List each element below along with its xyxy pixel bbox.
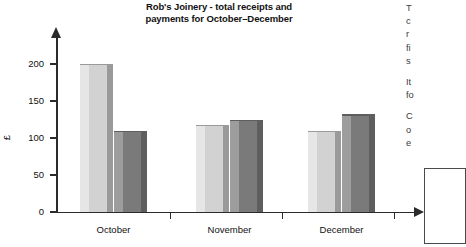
x-axis-label-october: October	[59, 224, 169, 235]
side-text-line: C	[406, 110, 443, 123]
x-axis-tick	[282, 212, 283, 219]
side-bordered-box	[424, 168, 466, 244]
side-spacer-1	[406, 68, 443, 76]
bar-face-mid	[123, 131, 141, 212]
side-paragraph-1: Tcrfis	[406, 2, 443, 68]
bar-face-right	[223, 125, 229, 212]
y-axis-tick	[50, 174, 57, 175]
y-axis-tick	[50, 137, 57, 138]
y-axis-arrow-icon	[51, 27, 61, 38]
bar-top-edge	[114, 131, 147, 132]
bar-receipts-november	[196, 125, 229, 212]
bar-face-right	[369, 114, 375, 212]
side-text-line: o	[406, 124, 443, 137]
bar-face-left	[196, 125, 205, 212]
bar-receipts-december	[308, 131, 341, 212]
y-axis-tick	[50, 211, 57, 212]
side-text-line: c	[406, 15, 443, 28]
bar-face-right	[257, 120, 263, 213]
y-axis-tick-label: 100	[10, 132, 44, 143]
bar-face-right	[141, 131, 147, 212]
bar-face-right	[335, 131, 341, 212]
side-text-column: Tcrfis Itfo Coe	[406, 2, 443, 150]
y-axis-tick	[50, 100, 57, 101]
bar-face-left	[114, 131, 123, 212]
bar-payments-october	[114, 131, 147, 212]
bar-top-edge	[230, 120, 263, 121]
side-text-line: s	[406, 55, 443, 68]
side-spacer-2	[406, 102, 443, 110]
side-text-line: fi	[406, 42, 443, 55]
bar-face-mid	[351, 114, 369, 212]
bar-face-mid	[205, 125, 223, 212]
bar-face-mid	[239, 120, 257, 213]
bar-face-left	[230, 120, 239, 213]
bar-top-edge	[308, 131, 341, 132]
y-axis-tick-label: 200	[10, 58, 44, 69]
bar-receipts-october	[80, 64, 113, 212]
x-axis-label-november: November	[175, 224, 285, 235]
y-axis-tick-label: 0	[10, 206, 44, 217]
bar-top-edge	[342, 114, 375, 115]
side-text-line: e	[406, 137, 443, 150]
x-axis-tick	[170, 212, 171, 219]
y-axis-tick-label: 50	[10, 169, 44, 180]
x-axis-tick	[394, 212, 395, 219]
bar-top-edge	[196, 125, 229, 126]
side-paragraph-3: Coe	[406, 110, 443, 150]
bar-payments-november	[230, 120, 263, 213]
bar-face-mid	[317, 131, 335, 212]
bar-face-mid	[89, 64, 107, 212]
side-paragraph-2: Itfo	[406, 76, 443, 102]
y-axis-tick	[50, 63, 57, 64]
side-text-line: fo	[406, 89, 443, 102]
x-axis-label-december: December	[287, 224, 397, 235]
bar-face-left	[80, 64, 89, 212]
bar-face-right	[107, 64, 113, 212]
side-text-line: T	[406, 2, 443, 15]
side-text-line: r	[406, 28, 443, 41]
x-axis-arrow-icon	[414, 207, 424, 217]
bar-payments-december	[342, 114, 375, 212]
y-axis-tick-label: 150	[10, 95, 44, 106]
bar-top-edge	[80, 64, 113, 65]
bar-face-left	[342, 114, 351, 212]
side-text-line: It	[406, 76, 443, 89]
bar-face-left	[308, 131, 317, 212]
